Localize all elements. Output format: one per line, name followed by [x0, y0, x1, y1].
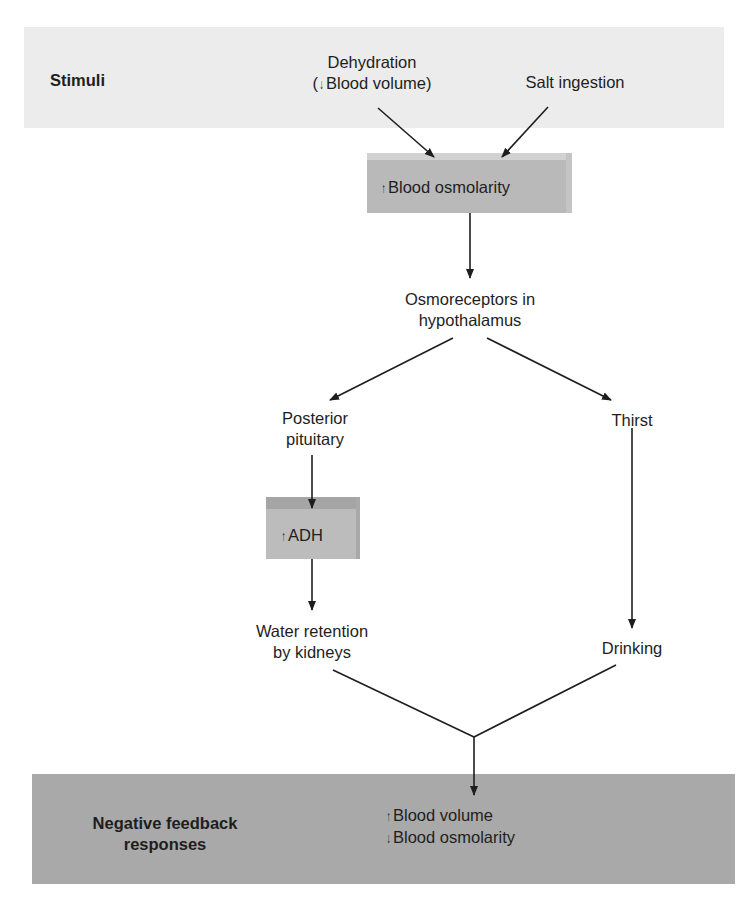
arrow-to-thirst — [487, 338, 611, 400]
line-water-to-merge — [333, 670, 474, 737]
arrow-dehydration-to-osmolarity — [378, 108, 434, 157]
arrow-salt-to-osmolarity — [502, 107, 548, 157]
line-drinking-to-merge — [474, 665, 616, 737]
connector-arrows — [0, 0, 752, 912]
arrow-to-pituitary — [330, 338, 453, 400]
